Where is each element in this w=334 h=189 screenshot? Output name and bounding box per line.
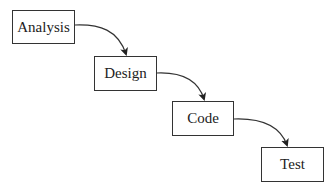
waterfall-diagram: Analysis Design Code Test [0,0,334,189]
stage-label: Code [187,110,219,127]
arrow-code-to-test [234,119,287,145]
stage-code: Code [172,101,234,136]
arrow-analysis-to-design [75,25,126,54]
stage-analysis: Analysis [12,10,75,44]
stage-label: Analysis [17,19,70,36]
stage-label: Design [104,65,147,82]
arrow-design-to-code [157,73,204,99]
stage-design: Design [94,56,157,91]
stage-test: Test [261,147,324,182]
stage-label: Test [280,156,305,173]
